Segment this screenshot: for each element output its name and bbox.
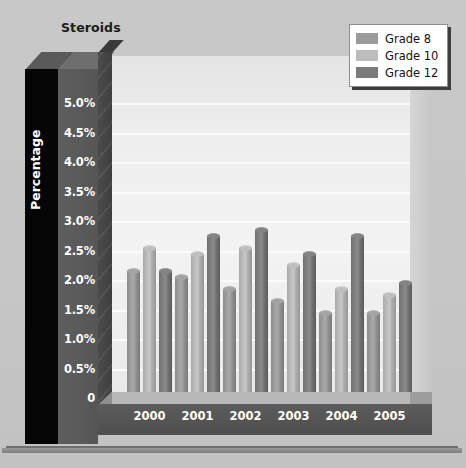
bar-grade-10-2004[interactable] (335, 286, 348, 398)
bar-grade-8-2002[interactable] (223, 286, 236, 398)
bar-grade-12-2000[interactable] (159, 268, 172, 398)
cylinder-body (319, 313, 332, 399)
cylinder-body (207, 236, 220, 398)
cylinder-body (255, 230, 268, 398)
cylinder-top (191, 251, 204, 257)
y-axis-tick-label: 0 (87, 391, 95, 405)
cylinder-top (143, 245, 156, 251)
y-axis-tick-label: 5.0% (64, 96, 95, 110)
cylinder-body (303, 254, 316, 399)
legend-swatch-grade-8 (356, 33, 378, 44)
cylinder-body (399, 283, 412, 398)
grid-line (112, 162, 432, 164)
cylinder-body (175, 277, 188, 398)
bar-grade-8-2001[interactable] (175, 274, 188, 398)
cylinder-top (399, 280, 412, 286)
cylinder-top (335, 286, 348, 292)
cylinder-body (159, 271, 172, 398)
y-axis-title: Percentage (28, 90, 43, 210)
y-axis-tick-label: 4.5% (64, 126, 95, 140)
y-axis-tick-label: 4.0% (64, 155, 95, 169)
cylinder-top (271, 298, 284, 304)
cylinder-top (207, 233, 220, 239)
plot-right-wall (410, 40, 432, 408)
cylinder-body (383, 295, 396, 398)
legend: Grade 8 Grade 10 Grade 12 (349, 24, 448, 87)
grid-line (112, 103, 432, 105)
cylinder-top (351, 233, 364, 239)
legend-item[interactable]: Grade 10 (356, 47, 438, 64)
cylinder-top (383, 292, 396, 298)
cylinder-body (127, 271, 140, 398)
legend-label: Grade 8 (385, 32, 431, 46)
bar-grade-10-2005[interactable] (383, 292, 396, 398)
y-axis-tick-label: 1.5% (64, 303, 95, 317)
bar-grade-10-2003[interactable] (287, 262, 300, 398)
bar-grade-8-2005[interactable] (367, 310, 380, 399)
cylinder-body (351, 236, 364, 398)
cylinder-body (271, 301, 284, 398)
grid-line (112, 192, 432, 194)
cylinder-body (191, 254, 204, 399)
y-axis-tick-label: 2.5% (64, 244, 95, 258)
bar-grade-8-2004[interactable] (319, 310, 332, 399)
cylinder-body (287, 265, 300, 398)
grid-line (112, 221, 432, 223)
bar-grade-12-2004[interactable] (351, 233, 364, 398)
cylinder-top (223, 286, 236, 292)
cylinder-body (239, 248, 252, 398)
grid-line (112, 251, 432, 253)
legend-item[interactable]: Grade 12 (356, 64, 438, 81)
grid-line (112, 133, 432, 135)
bar-grade-12-2003[interactable] (303, 251, 316, 399)
legend-swatch-grade-12 (356, 67, 378, 78)
cylinder-body (367, 313, 380, 399)
cylinder-top (239, 245, 252, 251)
legend-swatch-grade-10 (356, 50, 378, 61)
bar-grade-12-2002[interactable] (255, 227, 268, 398)
bar-grade-12-2005[interactable] (399, 280, 412, 398)
y-axis-tick-label: 3.5% (64, 185, 95, 199)
bar-grade-8-2000[interactable] (127, 268, 140, 398)
y-axis-side-wall (98, 52, 112, 427)
legend-label: Grade 10 (385, 49, 438, 63)
cylinder-body (143, 248, 156, 398)
cylinder-body (223, 289, 236, 398)
cylinder-top (303, 251, 316, 257)
legend-label: Grade 12 (385, 66, 438, 80)
y-axis-tick-panel: 5.0%4.5%4.0%3.5%3.0%2.5%2.0%1.5%1.0%0.5%… (58, 69, 98, 444)
x-axis-label-2005: 2005 (361, 409, 418, 423)
chart-title: Steroids (61, 20, 121, 35)
y-axis-tick-label: 2.0% (64, 273, 95, 287)
y-axis-tick-label: 1.0% (64, 332, 95, 346)
bar-grade-10-2001[interactable] (191, 251, 204, 399)
bar-grade-10-2002[interactable] (239, 245, 252, 398)
y-axis-tick-label: 3.0% (64, 214, 95, 228)
bar-grade-8-2003[interactable] (271, 298, 284, 398)
cylinder-top (255, 227, 268, 233)
bar-grade-10-2000[interactable] (143, 245, 156, 398)
y-axis-tick-label: 0.5% (64, 362, 95, 376)
bar-grade-12-2001[interactable] (207, 233, 220, 398)
cylinder-body (335, 289, 348, 398)
cylinder-top (367, 310, 380, 316)
cylinder-top (319, 310, 332, 316)
figure-frame-base (2, 448, 462, 453)
chart-figure: Steroids 5.0%4.5%4.0%3.5%3.0%2.5%2.0%1.5… (0, 0, 466, 468)
legend-item[interactable]: Grade 8 (356, 30, 438, 47)
